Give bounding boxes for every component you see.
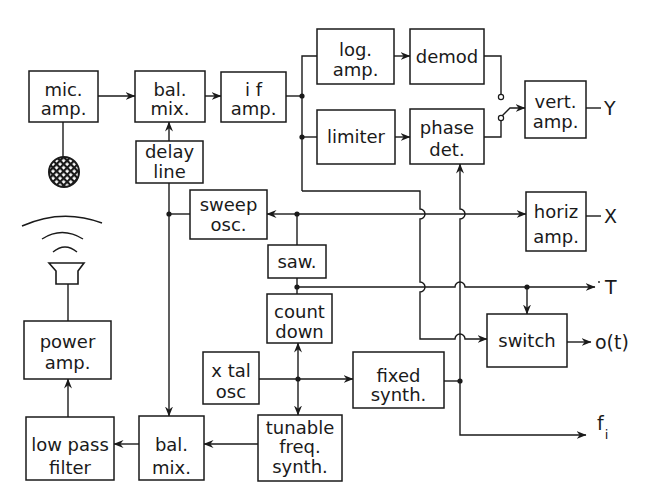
block-delay-line: delay line (136, 141, 203, 183)
output-label-T: T (604, 276, 617, 298)
wire-selector-to-vert-amp (502, 108, 525, 116)
fi-subscript: i (605, 427, 609, 442)
output-label-ot: o(t) (595, 331, 629, 353)
block-label: x tal (211, 360, 250, 381)
wire-to-fi (460, 381, 586, 435)
block-label: synth. (371, 384, 427, 405)
block-diagram: mic. amp. bal. mix. i f amp. log. amp. d… (0, 0, 649, 502)
wire-demod-to-selector (484, 56, 501, 95)
speaker-icon (22, 216, 102, 284)
block-low-pass-filter: low pass filter (26, 417, 114, 480)
block-label: sweep (200, 194, 258, 215)
junction-dot (294, 284, 299, 289)
block-label: amp. (45, 352, 91, 373)
block-demod: demod (410, 29, 484, 84)
block-bal-mix-bottom: bal. mix. (139, 416, 204, 480)
junction-dot (294, 211, 299, 216)
block-tunable-freq-synth: tunable freq. synth. (258, 415, 342, 481)
block-count-down: count down (267, 294, 332, 343)
block-label: phase (420, 117, 474, 138)
block-label: amp. (533, 226, 579, 247)
block-fixed-synth: fixed synth. (353, 352, 444, 408)
block-label: bal. (155, 434, 188, 455)
wire-phase-det-to-selector (484, 121, 501, 138)
block-label: det. (429, 139, 464, 160)
block-xtal-osc: x tal osc (203, 352, 259, 404)
block-label: i f (245, 79, 263, 100)
block-phase-det: phase det. (410, 109, 484, 164)
block-label: amp. (533, 111, 579, 132)
block-label: mix. (151, 98, 190, 119)
block-limiter: limiter (317, 110, 395, 164)
junction-dot (299, 134, 304, 139)
block-label: vert. (535, 91, 577, 112)
sound-wave-icon (42, 233, 83, 240)
wire-fixed-synth-to-phase-det (460, 164, 465, 381)
wire-if-bus-vertical (302, 56, 317, 191)
block-label: osc. (210, 214, 246, 235)
block-label: fixed (377, 365, 421, 386)
sound-wave-icon (22, 216, 102, 226)
tick-mark (598, 281, 600, 283)
block-mic-amp: mic. amp. (29, 71, 98, 122)
output-label-fi: fi (597, 412, 608, 442)
block-log-amp: log. amp. (317, 29, 394, 84)
block-label: freq. (279, 436, 321, 457)
block-saw: saw. (268, 245, 326, 278)
block-label: demod (416, 46, 478, 67)
block-label: filter (49, 457, 91, 478)
block-label: bal. (153, 79, 186, 100)
block-label: horiz (534, 201, 578, 222)
diagram-svg: mic. amp. bal. mix. i f amp. log. amp. d… (0, 0, 649, 502)
block-label: saw. (277, 251, 316, 272)
junction-dot (524, 284, 529, 289)
output-label-Y: Y (603, 97, 616, 119)
junction-dot (457, 378, 462, 383)
block-horiz-amp: horiz amp. (526, 192, 586, 251)
block-label: log. (339, 39, 372, 60)
block-if-amp: i f amp. (221, 72, 286, 122)
block-bal-mix-top: bal. mix. (135, 71, 205, 122)
block-label: count (274, 301, 325, 322)
block-label: line (153, 161, 185, 182)
block-label: tunable (266, 417, 334, 438)
block-label: synth. (272, 456, 328, 477)
junction-dot (299, 93, 304, 98)
block-vert-amp: vert. amp. (525, 81, 586, 138)
block-label: osc (216, 381, 246, 402)
block-label: switch (498, 330, 555, 351)
wire-to-T (297, 282, 595, 287)
block-label: low pass (31, 434, 109, 455)
block-power-amp: power amp. (24, 321, 111, 379)
block-label: amp. (231, 98, 277, 119)
block-label: limiter (327, 126, 386, 147)
block-switch: switch (487, 314, 567, 367)
block-label: mic. (44, 79, 82, 100)
block-label: power (40, 331, 96, 352)
block-label: mix. (152, 457, 191, 478)
block-label: amp. (333, 59, 379, 80)
junction-dot (295, 376, 300, 381)
output-label-X: X (604, 205, 617, 227)
junction-dot (166, 211, 171, 216)
block-sweep-osc: sweep osc. (190, 190, 267, 239)
microphone-icon (49, 157, 79, 187)
block-label: amp. (41, 98, 87, 119)
block-label: down (275, 321, 324, 342)
sound-wave-icon (53, 247, 77, 252)
block-label: delay (145, 141, 195, 162)
switch-contact-icon (498, 94, 503, 120)
